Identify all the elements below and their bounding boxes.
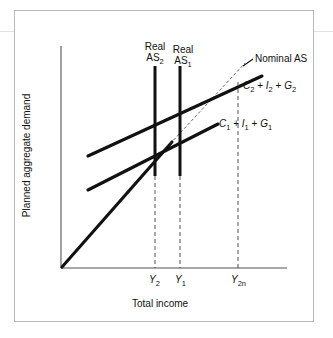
ad1-g-sub: 1 bbox=[268, 123, 272, 132]
x-tick-label-y1: Y1 bbox=[175, 274, 186, 286]
x-tick-label-y2: Y2 bbox=[149, 274, 160, 286]
real-as-1-label-line1: Real bbox=[173, 44, 194, 55]
ad-curve-1-line bbox=[88, 124, 218, 190]
ad1-g: G bbox=[260, 118, 268, 129]
real-as-2-label-line2: AS bbox=[146, 52, 159, 63]
x-tick-y1-sub: 1 bbox=[182, 279, 186, 288]
ad2-c-sub: 2 bbox=[250, 85, 254, 94]
ad2-plus1: + bbox=[257, 80, 263, 91]
ad2-g: G bbox=[284, 80, 292, 91]
economics-figure: Planned aggregate demand Total income Re… bbox=[0, 0, 333, 338]
ad2-g-sub: 2 bbox=[292, 85, 296, 94]
real-as-1-label: Real AS1 bbox=[161, 44, 205, 67]
ad1-plus2: + bbox=[252, 118, 258, 129]
nominal-as-label: Nominal AS bbox=[255, 53, 307, 64]
ad1-i-sub: 1 bbox=[245, 123, 249, 132]
x-tick-label-y2n: Y2n bbox=[231, 274, 246, 286]
nominal-as-leader-line bbox=[243, 59, 253, 66]
real-as-1-label-line2: AS bbox=[174, 55, 187, 66]
ad2-i-sub: 2 bbox=[269, 85, 273, 94]
ad-curve-2-line bbox=[88, 76, 262, 156]
ad2-plus2: + bbox=[276, 80, 282, 91]
x-tick-y1-letter: Y bbox=[175, 274, 182, 285]
ad-curve-1-label: C1 + I1 + G1 bbox=[219, 118, 272, 130]
x-tick-y2n-sub: 2n bbox=[238, 279, 246, 288]
ad-curve-2-label: C2 + I2 + G2 bbox=[243, 80, 296, 92]
real-as-1-label-sub: 1 bbox=[188, 60, 192, 69]
ad1-c-sub: 1 bbox=[226, 123, 230, 132]
x-axis-label: Total income bbox=[132, 298, 188, 309]
y-axis-label: Planned aggregate demand bbox=[21, 86, 32, 226]
x-tick-y2-sub: 2 bbox=[156, 279, 160, 288]
x-tick-y2-letter: Y bbox=[149, 274, 156, 285]
x-tick-y2n-letter: Y bbox=[231, 274, 238, 285]
ad1-plus1: + bbox=[233, 118, 239, 129]
